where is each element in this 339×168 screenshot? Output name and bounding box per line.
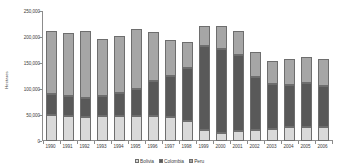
- bar-segment-bolivia[interactable]: [284, 127, 296, 141]
- bar-segment-bolivia[interactable]: [97, 116, 109, 141]
- bar-segment-peru[interactable]: [199, 26, 211, 46]
- bar-group[interactable]: [199, 11, 211, 141]
- legend-item-peru[interactable]: Peru: [189, 159, 204, 164]
- y-axis-tick-label: 50,000: [12, 113, 40, 118]
- bar-segment-colombia[interactable]: [148, 81, 160, 116]
- x-axis-tick-label: 1992: [76, 144, 94, 150]
- bar-segment-colombia[interactable]: [284, 85, 296, 127]
- bar-segment-bolivia[interactable]: [318, 127, 330, 141]
- bar-group[interactable]: [114, 11, 126, 141]
- bar-segment-colombia[interactable]: [46, 94, 58, 115]
- bar-segment-peru[interactable]: [267, 61, 279, 84]
- x-axis-tick-label: 2003: [263, 144, 281, 150]
- bar-segment-bolivia[interactable]: [165, 117, 177, 141]
- y-axis-tick-mark: [39, 63, 42, 64]
- legend-label: Bolivia: [140, 159, 154, 164]
- bar-segment-colombia[interactable]: [301, 83, 313, 128]
- bar-segment-bolivia[interactable]: [267, 129, 279, 141]
- x-axis-tick-label: 2002: [246, 144, 264, 150]
- plot-area: [42, 11, 333, 141]
- legend-item-colombia[interactable]: Colombia: [159, 159, 184, 164]
- bar-segment-peru[interactable]: [148, 32, 160, 81]
- bar-group[interactable]: [233, 11, 245, 141]
- legend-label: Colombia: [164, 159, 184, 164]
- x-axis-tick-label: 1997: [161, 144, 179, 150]
- x-axis-tick-label: 1998: [178, 144, 196, 150]
- y-axis-tick-label: 250,000: [12, 9, 40, 14]
- bar-segment-bolivia[interactable]: [233, 131, 245, 141]
- bar-segment-peru[interactable]: [114, 36, 126, 92]
- bar-group[interactable]: [182, 11, 194, 141]
- x-axis-tick-label: 1991: [59, 144, 77, 150]
- bar-segment-peru[interactable]: [301, 57, 313, 82]
- bar-segment-colombia[interactable]: [318, 86, 330, 127]
- bar-segment-peru[interactable]: [165, 40, 177, 76]
- bar-segment-colombia[interactable]: [250, 77, 262, 130]
- bar-segment-bolivia[interactable]: [301, 127, 313, 141]
- bar-segment-peru[interactable]: [97, 39, 109, 96]
- x-axis-tick-label: 1993: [93, 144, 111, 150]
- bar-segment-bolivia[interactable]: [199, 130, 211, 141]
- bar-group[interactable]: [216, 11, 228, 141]
- bar-segment-peru[interactable]: [284, 59, 296, 85]
- bar-segment-colombia[interactable]: [267, 84, 279, 129]
- bar-segment-colombia[interactable]: [216, 49, 228, 134]
- bar-segment-colombia[interactable]: [63, 96, 75, 116]
- bar-segment-colombia[interactable]: [80, 98, 92, 117]
- bar-group[interactable]: [63, 11, 75, 141]
- bar-segment-bolivia[interactable]: [148, 116, 160, 141]
- bar-segment-peru[interactable]: [250, 52, 262, 76]
- bar-group[interactable]: [80, 11, 92, 141]
- x-axis-tick-label: 1995: [127, 144, 145, 150]
- legend-item-bolivia[interactable]: Bolivia: [135, 159, 154, 164]
- legend-swatch-icon: [189, 159, 193, 163]
- y-axis-tick-label: 100,000: [12, 87, 40, 92]
- bar-segment-peru[interactable]: [46, 31, 58, 94]
- bar-group[interactable]: [97, 11, 109, 141]
- bar-segment-peru[interactable]: [63, 33, 75, 96]
- bar-segment-colombia[interactable]: [182, 68, 194, 121]
- bar-segment-bolivia[interactable]: [46, 115, 58, 141]
- bar-segment-bolivia[interactable]: [131, 116, 143, 141]
- y-axis-tick-label: 0: [12, 139, 40, 144]
- bar-segment-peru[interactable]: [131, 29, 143, 89]
- bar-group[interactable]: [250, 11, 262, 141]
- bar-group[interactable]: [46, 11, 58, 141]
- bar-segment-bolivia[interactable]: [80, 117, 92, 141]
- bar-group[interactable]: [318, 11, 330, 141]
- y-axis-tick-mark: [39, 11, 42, 12]
- bar-segment-bolivia[interactable]: [182, 121, 194, 141]
- bar-segment-colombia[interactable]: [131, 89, 143, 115]
- y-axis-tick-mark: [39, 89, 42, 90]
- bar-group[interactable]: [131, 11, 143, 141]
- x-axis-tick-label: 2006: [314, 144, 332, 150]
- x-axis-tick-label: 2000: [212, 144, 230, 150]
- bar-segment-bolivia[interactable]: [250, 130, 262, 141]
- bars-layer: [43, 11, 333, 141]
- legend-swatch-icon: [159, 159, 163, 163]
- bar-group[interactable]: [148, 11, 160, 141]
- x-axis-tick-label: 1994: [110, 144, 128, 150]
- x-axis-tick-label: 1996: [144, 144, 162, 150]
- bar-segment-colombia[interactable]: [97, 96, 109, 117]
- x-axis-tick-label: 1999: [195, 144, 213, 150]
- bar-group[interactable]: [165, 11, 177, 141]
- bar-group[interactable]: [267, 11, 279, 141]
- legend-label: Peru: [194, 159, 204, 164]
- bar-segment-bolivia[interactable]: [216, 133, 228, 141]
- bar-segment-peru[interactable]: [80, 31, 92, 98]
- bar-segment-bolivia[interactable]: [114, 116, 126, 141]
- bar-segment-colombia[interactable]: [165, 76, 177, 117]
- bar-segment-colombia[interactable]: [233, 55, 245, 130]
- bar-segment-colombia[interactable]: [114, 93, 126, 116]
- y-axis-tick-mark: [39, 37, 42, 38]
- bar-segment-peru[interactable]: [318, 59, 330, 86]
- bar-group[interactable]: [301, 11, 313, 141]
- bar-segment-peru[interactable]: [182, 42, 194, 69]
- bar-segment-peru[interactable]: [233, 31, 245, 55]
- bar-segment-peru[interactable]: [216, 26, 228, 49]
- chart-legend: BoliviaColombiaPeru: [0, 156, 339, 166]
- bar-segment-bolivia[interactable]: [63, 116, 75, 141]
- bar-group[interactable]: [284, 11, 296, 141]
- bar-segment-colombia[interactable]: [199, 46, 211, 129]
